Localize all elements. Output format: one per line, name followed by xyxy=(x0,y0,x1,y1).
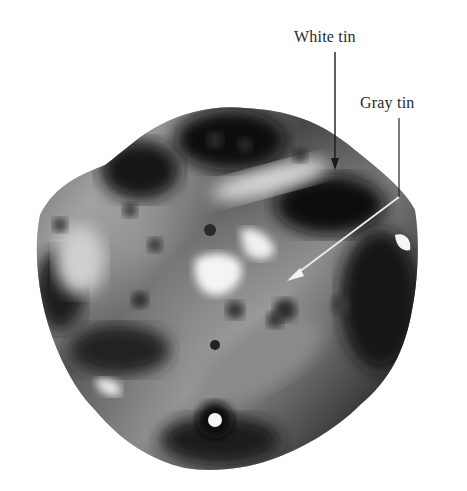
specimen-image xyxy=(0,0,467,491)
gray-tin-label: Gray tin xyxy=(360,94,414,112)
white-tin-label: White tin xyxy=(294,28,356,46)
tin-micrograph-figure: White tin Gray tin xyxy=(0,0,467,491)
